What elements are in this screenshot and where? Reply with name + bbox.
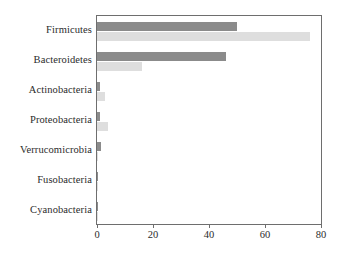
x-axis-tick-label: 40 [204, 229, 215, 241]
bar [97, 152, 98, 161]
y-axis-label-bacteroidetes: Bacteroidetes [2, 54, 92, 65]
bar-group [97, 166, 321, 196]
bar [97, 202, 98, 211]
bar [97, 52, 226, 61]
bar [97, 32, 310, 41]
bar [97, 82, 100, 91]
bar-chart: FirmicutesBacteroidetesActinobacteriaPro… [0, 0, 345, 256]
x-axis-tick-label: 20 [148, 229, 159, 241]
y-axis-label-firmicutes: Firmicutes [2, 24, 92, 35]
bar [97, 212, 98, 221]
bar [97, 172, 98, 181]
bar [97, 22, 237, 31]
y-axis-label-fusobacteria: Fusobacteria [2, 174, 92, 185]
y-axis-category-labels: FirmicutesBacteroidetesActinobacteriaPro… [0, 15, 92, 225]
bar [97, 182, 98, 191]
bar [97, 62, 142, 71]
x-axis: 020406080 [96, 225, 322, 247]
x-axis-tick-label: 60 [260, 229, 271, 241]
bar-group [97, 46, 321, 76]
plot-area [96, 15, 322, 225]
bar [97, 112, 100, 121]
bar [97, 142, 101, 151]
bar-group [97, 136, 321, 166]
x-axis-tick [97, 225, 98, 228]
bar-group [97, 76, 321, 106]
x-axis-tick [153, 225, 154, 228]
bar [97, 92, 105, 101]
bar-group [97, 16, 321, 46]
bar-group [97, 196, 321, 226]
y-axis-label-verrucomicrobia: Verrucomicrobia [2, 144, 92, 155]
x-axis-tick-label: 0 [94, 229, 99, 241]
x-axis-tick-label: 80 [316, 229, 327, 241]
y-axis-label-cyanobacteria: Cyanobacteria [2, 204, 92, 215]
x-axis-tick [209, 225, 210, 228]
bar-group [97, 106, 321, 136]
y-axis-label-actinobacteria: Actinobacteria [2, 84, 92, 95]
bar [97, 122, 108, 131]
x-axis-tick [265, 225, 266, 228]
y-axis-label-proteobacteria: Proteobacteria [2, 114, 92, 125]
x-axis-tick [321, 225, 322, 228]
